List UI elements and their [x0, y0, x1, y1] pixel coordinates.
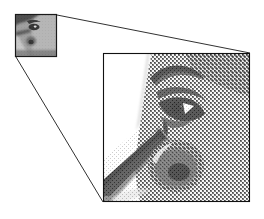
figure-canvas — [0, 0, 264, 219]
magnification-figure — [0, 0, 264, 219]
magnified-detail-panel[interactable] — [103, 53, 250, 202]
thumbnail-texture — [15, 14, 57, 57]
source-image-thumbnail[interactable] — [15, 14, 57, 57]
